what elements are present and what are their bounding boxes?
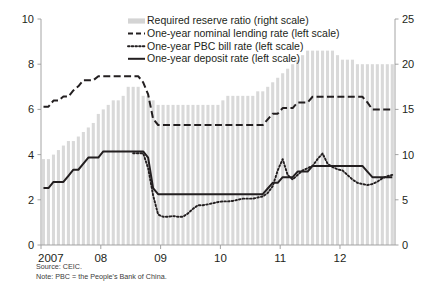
reserve-ratio-bar <box>72 141 75 245</box>
reserve-ratio-bar <box>376 64 379 245</box>
legend-item-label: Required reserve ratio (right scale) <box>147 14 309 26</box>
reserve-ratio-bar <box>57 150 60 245</box>
reserve-ratio-bar <box>221 100 224 245</box>
left-axis-tick-label: 0 <box>28 239 34 251</box>
reserve-ratio-bar <box>117 100 120 245</box>
reserve-ratio-bar <box>356 64 359 245</box>
reserve-ratio-bar <box>336 55 339 245</box>
right-axis-ticks: 0510152025 <box>395 13 414 251</box>
reserve-ratio-bar <box>201 105 204 245</box>
left-axis-tick-label: 10 <box>22 13 34 25</box>
legend-item-label: One-year deposit rate (left scale) <box>147 52 300 64</box>
bar-swatch-icon <box>128 18 145 23</box>
reserve-ratio-bar <box>316 51 319 245</box>
reserve-ratio-bar <box>381 64 384 245</box>
reserve-ratio-bar <box>331 51 334 245</box>
reserve-ratio-bar <box>271 82 274 245</box>
right-axis-tick-label: 15 <box>402 103 414 115</box>
reserve-ratio-bar <box>97 114 100 245</box>
legend-item-label: One-year nominal lending rate (left scal… <box>147 27 340 39</box>
reserve-ratio-bar <box>306 51 309 245</box>
reserve-ratio-bar <box>296 60 299 245</box>
right-axis-tick-label: 20 <box>402 58 414 70</box>
chart-canvas: 0246810051015202520070809101112Required … <box>0 0 429 296</box>
definition-note: Note: PBC = the People's Bank of China. <box>36 272 416 282</box>
reserve-ratio-bar <box>107 105 110 245</box>
right-axis-tick-label: 10 <box>402 149 414 161</box>
reserve-ratio-bar <box>191 105 194 245</box>
reserve-ratio-bar <box>87 127 90 245</box>
reserve-ratio-bar <box>321 51 324 245</box>
left-axis-tick-label: 8 <box>28 58 34 70</box>
reserve-ratio-bar <box>246 96 249 245</box>
reserve-ratio-bar <box>47 159 50 245</box>
reserve-ratio-bar <box>276 78 279 245</box>
reserve-ratio-bar <box>251 96 254 245</box>
chart-figure: 0246810051015202520070809101112Required … <box>0 0 429 296</box>
reserve-ratio-bar <box>102 109 105 245</box>
reserve-ratio-bar <box>256 91 259 245</box>
reserve-ratio-bar <box>226 96 229 245</box>
reserve-ratio-bar <box>211 105 214 245</box>
reserve-ratio-bar <box>152 100 155 245</box>
reserve-ratio-bar <box>92 123 95 245</box>
reserve-ratio-bar <box>326 51 329 245</box>
reserve-ratio-bar <box>82 132 85 245</box>
right-axis-tick-label: 5 <box>402 194 408 206</box>
reserve-ratio-bar <box>42 159 45 245</box>
reserve-ratio-bar <box>371 64 374 245</box>
right-axis-tick-label: 25 <box>402 13 414 25</box>
reserve-ratio-bar <box>341 60 344 245</box>
reserve-ratio-bar <box>366 64 369 245</box>
left-axis-ticks: 0246810 <box>22 13 41 251</box>
source-note: Source: CEIC. <box>36 262 416 272</box>
reserve-ratio-bar <box>231 96 234 245</box>
reserve-ratio-bar <box>142 96 145 245</box>
reserve-ratio-bar <box>301 55 304 245</box>
reserve-ratio-bar <box>137 87 140 245</box>
reserve-ratio-bar <box>122 96 125 245</box>
reserve-ratio-bar <box>346 60 349 245</box>
left-axis-tick-label: 2 <box>28 194 34 206</box>
footnotes-block: Source: CEIC. Note: PBC = the People's B… <box>36 262 416 282</box>
reserve-ratio-bar <box>286 69 289 245</box>
reserve-ratio-bar <box>67 141 70 245</box>
reserve-ratio-bar <box>351 60 354 245</box>
legend-item-label: One-year PBC bill rate (left scale) <box>147 40 303 52</box>
reserve-ratio-bar <box>62 146 65 245</box>
left-axis-tick-label: 6 <box>28 103 34 115</box>
reserve-ratio-bar <box>386 64 389 245</box>
right-axis-tick-label: 0 <box>402 239 408 251</box>
left-axis-tick-label: 4 <box>28 149 34 161</box>
reserve-ratio-bar <box>132 87 135 245</box>
reserve-ratio-bar <box>241 96 244 245</box>
reserve-ratio-bar <box>266 87 269 245</box>
reserve-ratio-bar <box>236 96 239 245</box>
reserve-ratio-bar <box>391 64 394 245</box>
reserve-ratio-bar <box>261 91 264 245</box>
reserve-ratio-bar <box>112 100 115 245</box>
reserve-ratio-bar <box>52 155 55 245</box>
reserve-ratio-bar <box>361 64 364 245</box>
reserve-ratio-bar <box>77 137 80 245</box>
reserve-ratio-bar <box>127 87 130 245</box>
reserve-ratio-bar <box>311 51 314 245</box>
reserve-ratio-bar <box>291 64 294 245</box>
